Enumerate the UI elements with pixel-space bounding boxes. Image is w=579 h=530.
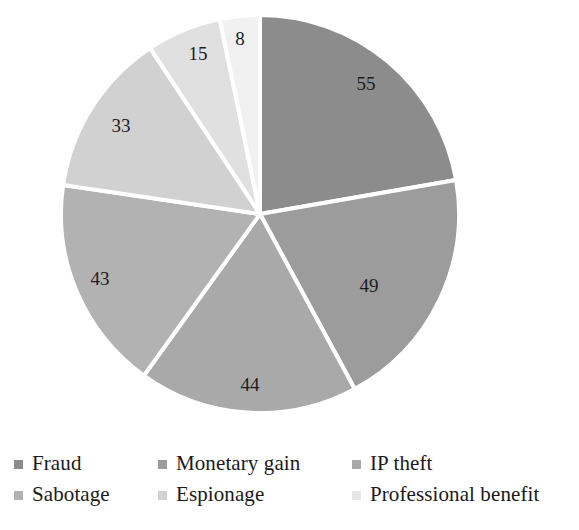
legend-item-espionage[interactable]: Espionage [158,479,264,510]
legend-item-label: IP theft [370,453,432,474]
pie-slice-value-label: 55 [357,73,376,94]
pie-slice-value-label: 44 [241,374,261,395]
legend-item-fraud[interactable]: Fraud [14,448,82,479]
pie-slice-value-label: 8 [235,28,245,49]
pie-slice-group [61,15,459,413]
pie-slice-value-label: 49 [360,275,379,296]
pie-chart-svg: 5549444333158 [0,0,579,430]
legend-swatch-icon [352,460,361,469]
chart-legend: FraudMonetary gainIP theftSabotageEspion… [0,448,579,518]
legend-swatch-icon [352,491,361,500]
legend-swatch-icon [14,460,23,469]
legend-item-monetary-gain[interactable]: Monetary gain [158,448,300,479]
pie-chart-plot-area: 5549444333158 [0,0,579,430]
legend-item-professional-benefit[interactable]: Professional benefit [352,479,539,510]
legend-item-label: Fraud [32,453,82,474]
pie-slice-value-label: 15 [189,43,208,64]
legend-item-label: Monetary gain [176,453,300,474]
pie-chart-figure: 5549444333158 FraudMonetary gainIP theft… [0,0,579,530]
legend-row: FraudMonetary gainIP theft [0,448,579,479]
legend-swatch-icon [14,491,23,500]
legend-item-ip-theft[interactable]: IP theft [352,448,432,479]
pie-slice-value-label: 43 [91,268,110,289]
legend-item-label: Espionage [176,484,264,505]
legend-item-sabotage[interactable]: Sabotage [14,479,110,510]
legend-item-label: Professional benefit [370,484,539,505]
legend-swatch-icon [158,460,167,469]
legend-row: SabotageEspionageProfessional benefit [0,479,579,510]
legend-item-label: Sabotage [32,484,110,505]
pie-slice-value-label: 33 [112,115,131,136]
legend-swatch-icon [158,491,167,500]
